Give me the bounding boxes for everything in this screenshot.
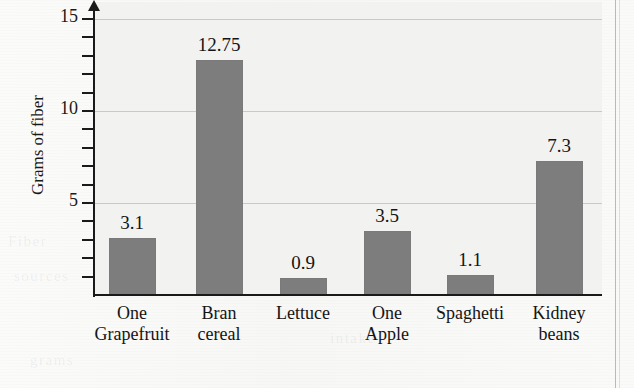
gridline — [95, 19, 602, 20]
y-axis-tick — [82, 18, 94, 20]
bar-value-label: 12.75 — [174, 34, 264, 56]
bar — [109, 238, 156, 295]
page-edge-rule — [615, 0, 616, 388]
category-label-line: Apple — [332, 324, 442, 345]
y-axis-tick — [82, 73, 94, 75]
x-axis-line — [93, 294, 602, 296]
bar — [196, 60, 243, 295]
bar — [447, 275, 494, 295]
bar — [364, 231, 411, 295]
y-axis-tick-label: 10 — [48, 98, 78, 119]
category-label-line: Kidney — [504, 303, 614, 324]
bar-value-label: 3.5 — [342, 205, 432, 227]
y-axis-tick — [82, 92, 94, 94]
bar — [280, 278, 327, 295]
y-axis-tick-labels: 51015 — [44, 0, 78, 300]
gridline — [95, 111, 602, 112]
page-edge-rule-secondary — [619, 0, 620, 388]
category-label-line: beans — [504, 324, 614, 345]
bar-value-label: 1.1 — [425, 249, 515, 271]
y-axis-tick — [82, 55, 94, 57]
bar — [536, 161, 583, 295]
y-axis-tick-label: 5 — [48, 190, 78, 211]
y-axis-tick — [82, 202, 94, 204]
y-axis-arrow-icon — [88, 0, 100, 11]
y-axis-tick — [82, 276, 94, 278]
category-label-line: cereal — [164, 324, 274, 345]
y-axis-title: Grams of fiber — [28, 65, 48, 225]
y-axis-tick — [82, 257, 94, 259]
y-axis-tick-label: 15 — [48, 6, 78, 27]
category-label: Kidneybeans — [504, 303, 614, 345]
y-axis-tick — [82, 165, 94, 167]
bar-value-label: 0.9 — [258, 252, 348, 274]
y-axis-tick — [82, 184, 94, 186]
y-axis-tick — [82, 147, 94, 149]
y-axis-tick — [82, 36, 94, 38]
y-axis-tick — [82, 110, 94, 112]
bar-value-label: 7.3 — [514, 135, 604, 157]
y-axis-tick — [82, 128, 94, 130]
y-axis-tick — [82, 239, 94, 241]
y-axis-line — [93, 8, 95, 297]
bar-value-label: 3.1 — [87, 212, 177, 234]
